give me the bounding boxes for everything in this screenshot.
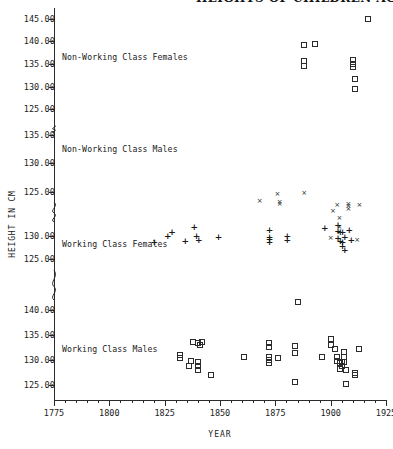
data-point-x: × — [337, 215, 343, 221]
data-point-x: × — [354, 237, 360, 243]
chart-figure: HEIGHTS OF CHILDREN AGED ELEVEN YEARS HE… — [0, 0, 393, 449]
data-point-plus: + — [283, 237, 289, 243]
data-point-plus: + — [334, 222, 340, 228]
data-point-plus: + — [339, 229, 345, 235]
data-point-square — [328, 336, 334, 342]
data-point-x: × — [277, 199, 283, 205]
data-point-square — [292, 343, 298, 349]
data-point-x: × — [277, 201, 283, 207]
data-point-square — [352, 86, 358, 92]
data-point-x: × — [334, 202, 340, 208]
data-point-square — [332, 346, 338, 352]
data-point-square — [350, 61, 356, 67]
data-point-plus: + — [193, 233, 199, 239]
data-point-square — [337, 360, 343, 366]
data-point-square — [292, 350, 298, 356]
data-point-square — [292, 379, 298, 385]
data-point-square — [195, 359, 201, 365]
data-point-square — [266, 357, 272, 363]
data-point-plus: + — [339, 243, 345, 249]
data-point-square — [352, 76, 358, 82]
data-point-square — [319, 354, 325, 360]
data-point-square — [186, 363, 192, 369]
data-point-square — [195, 367, 201, 373]
data-point-plus: + — [334, 235, 340, 241]
data-point-square — [337, 366, 343, 372]
data-point-square — [295, 299, 301, 305]
data-point-square — [339, 359, 345, 365]
data-point-plus: + — [164, 233, 170, 239]
data-point-x: × — [345, 203, 351, 209]
data-point-square — [301, 42, 307, 48]
data-point-square — [199, 339, 205, 345]
data-point-x: × — [330, 208, 336, 214]
data-point-square — [339, 363, 345, 369]
data-point-plus: + — [348, 237, 354, 243]
data-point-plus: + — [337, 238, 343, 244]
data-point-square — [195, 363, 201, 369]
data-point-plus: + — [182, 238, 188, 244]
data-point-square — [197, 342, 203, 348]
data-point-x: × — [345, 206, 351, 212]
data-point-plus: + — [341, 247, 347, 253]
data-point-square — [312, 41, 318, 47]
data-point-square — [341, 354, 347, 360]
data-point-plus: + — [321, 225, 327, 231]
data-point-square — [350, 57, 356, 63]
data-point-x: × — [345, 201, 351, 207]
data-point-square — [343, 381, 349, 387]
data-point-square — [266, 340, 272, 346]
data-point-plus: + — [337, 229, 343, 235]
data-point-square — [341, 359, 347, 365]
data-point-plus: + — [266, 234, 272, 240]
data-point-square — [343, 367, 349, 373]
data-point-square — [350, 64, 356, 70]
data-point-square — [190, 339, 196, 345]
data-point-square — [195, 340, 201, 346]
data-point-plus: + — [266, 236, 272, 242]
data-point-square — [301, 63, 307, 69]
data-point-plus: + — [266, 239, 272, 245]
data-point-square — [275, 355, 281, 361]
data-point-square — [365, 16, 371, 22]
data-point-plus: + — [215, 234, 221, 240]
data-point-x: × — [257, 198, 263, 204]
data-point-square — [177, 352, 183, 358]
data-point-square — [241, 354, 247, 360]
data-point-plus: + — [345, 227, 351, 233]
data-point-square — [266, 354, 272, 360]
data-point-x: × — [301, 190, 307, 196]
data-point-plus: + — [151, 239, 157, 245]
data-point-square — [208, 372, 214, 378]
data-point-x: × — [337, 224, 343, 230]
data-point-plus: + — [190, 224, 196, 230]
data-point-square — [266, 344, 272, 350]
scatter-plot-area: ×××××××××××××××+++++++++++++++++++++++++… — [0, 0, 393, 449]
data-point-plus: + — [334, 228, 340, 234]
data-point-square — [352, 370, 358, 376]
data-point-x: × — [356, 202, 362, 208]
data-point-square — [328, 342, 334, 348]
data-point-square — [356, 346, 362, 352]
data-point-plus: + — [339, 239, 345, 245]
data-point-plus: + — [283, 233, 289, 239]
data-point-plus: + — [168, 229, 174, 235]
data-point-x: × — [328, 235, 334, 241]
data-point-square — [334, 358, 340, 364]
data-point-plus: + — [195, 237, 201, 243]
data-point-x: × — [275, 191, 281, 197]
data-point-square — [188, 358, 194, 364]
data-point-square — [341, 349, 347, 355]
data-point-square — [352, 372, 358, 378]
data-point-square — [266, 360, 272, 366]
data-point-square — [334, 354, 340, 360]
data-point-plus: + — [266, 227, 272, 233]
data-point-square — [301, 58, 307, 64]
data-point-square — [177, 355, 183, 361]
data-point-plus: + — [341, 234, 347, 240]
